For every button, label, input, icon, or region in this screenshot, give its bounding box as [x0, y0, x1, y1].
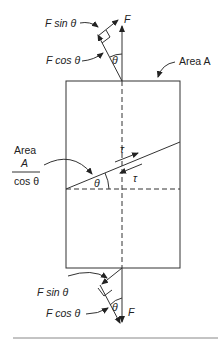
top-fsin-label: F sin θ: [45, 17, 76, 29]
area-numerator-label: A: [20, 157, 28, 169]
bottom-fsin-pointer: [68, 272, 107, 278]
stress-diagram: θ τ τ Area A cos θ F θ F sin θ F cos θ A…: [0, 0, 218, 341]
bottom-force-label: F: [128, 306, 135, 318]
top-theta-label: θ: [112, 54, 118, 66]
bar-body: [66, 81, 180, 268]
top-fcos-arrow: [98, 35, 122, 81]
theta-arc-middle: [105, 173, 109, 189]
bottom-fcos-label: F cos θ: [46, 307, 80, 319]
tau-lower-label: τ: [133, 172, 138, 184]
top-fcos-pointer: [82, 53, 103, 61]
top-fcos-label: F cos θ: [46, 54, 80, 66]
tau-upper-label: τ: [120, 143, 125, 155]
area-a-pointer: [158, 62, 175, 77]
theta-label-middle: θ: [94, 177, 100, 189]
area-word-label: Area: [14, 144, 36, 156]
top-fsin-pointer: [80, 23, 98, 28]
bottom-fsin-label: F sin θ: [37, 286, 68, 298]
bottom-right-angle: [98, 288, 112, 296]
area-a-label: Area A: [179, 55, 211, 67]
area-denominator-label: cos θ: [14, 175, 39, 187]
bottom-fsin-arrow: [102, 268, 122, 284]
bottom-theta-label: θ: [112, 301, 118, 313]
area-pointer-arrow: [44, 159, 92, 174]
bottom-fcos-pointer: [86, 308, 108, 314]
top-force-label: F: [124, 13, 131, 25]
